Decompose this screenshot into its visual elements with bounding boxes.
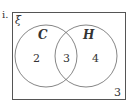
outside-count: 3 [114, 87, 121, 98]
question-label: i. [2, 10, 8, 20]
set-c-label: C [38, 29, 48, 41]
set-h-only-count: 4 [92, 53, 99, 64]
set-c-only-count: 2 [33, 53, 40, 64]
universal-symbol: ξ [15, 15, 21, 26]
intersection-count: 3 [63, 53, 70, 64]
set-h-label: H [83, 29, 94, 41]
